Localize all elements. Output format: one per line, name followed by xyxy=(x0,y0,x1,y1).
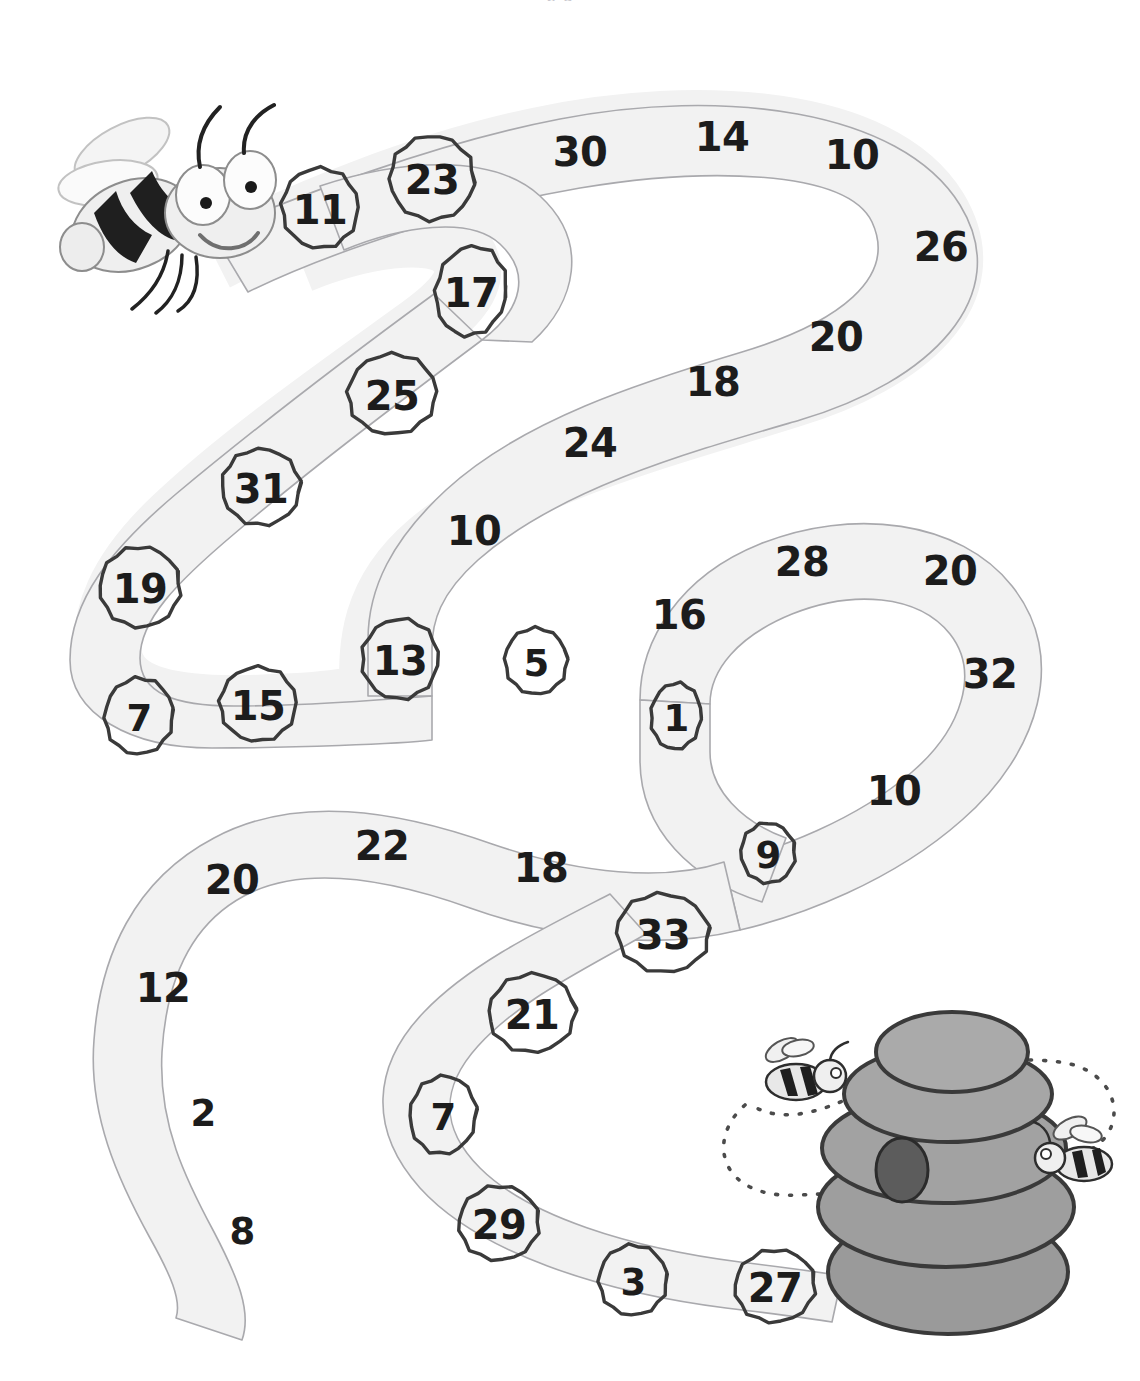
path-number[interactable]: 22 xyxy=(355,826,410,866)
path-number[interactable]: 12 xyxy=(136,968,191,1008)
path-number-circled[interactable]: 3 xyxy=(620,1264,645,1301)
path-number[interactable]: 28 xyxy=(775,542,830,582)
path-number[interactable]: 18 xyxy=(514,848,569,888)
path-number[interactable]: 10 xyxy=(867,771,922,811)
path-number-circled[interactable]: 5 xyxy=(523,645,548,682)
path-number-circled[interactable]: 7 xyxy=(430,1099,455,1136)
path-number-circled[interactable]: 31 xyxy=(234,469,289,509)
path-number[interactable]: 32 xyxy=(963,654,1018,694)
path-number-circled[interactable]: 1 xyxy=(663,700,688,737)
path-number[interactable]: 24 xyxy=(563,423,618,463)
path-number-circled[interactable]: 19 xyxy=(113,569,168,609)
small-bee-left-icon xyxy=(762,1033,848,1100)
path-number-circled[interactable]: 27 xyxy=(748,1268,803,1308)
path-number[interactable]: 10 xyxy=(825,135,880,175)
path-number-circled[interactable]: 21 xyxy=(505,995,560,1035)
path-number-circled[interactable]: 29 xyxy=(472,1205,527,1245)
path-number[interactable]: 20 xyxy=(809,317,864,357)
path-number[interactable]: 14 xyxy=(695,117,750,157)
path-number[interactable]: 10 xyxy=(447,511,502,551)
worksheet-canvas: p g xyxy=(0,0,1140,1381)
path-number-circled[interactable]: 15 xyxy=(231,686,286,726)
path-number[interactable]: 8 xyxy=(229,1213,254,1250)
path-number[interactable]: 30 xyxy=(553,132,608,172)
path-number[interactable]: 16 xyxy=(652,595,707,635)
path-number-circled[interactable]: 9 xyxy=(755,837,780,874)
path-number-circled[interactable]: 23 xyxy=(405,160,460,200)
path-number-circled[interactable]: 33 xyxy=(636,915,691,955)
hive-body xyxy=(818,1012,1074,1334)
path-number-circled[interactable]: 25 xyxy=(365,376,420,416)
path-number-circled[interactable]: 17 xyxy=(444,273,499,313)
path-number[interactable]: 26 xyxy=(914,227,969,267)
path-number-circled[interactable]: 13 xyxy=(373,641,428,681)
path-number-circled[interactable]: 7 xyxy=(126,700,151,737)
path-number[interactable]: 2 xyxy=(190,1095,215,1132)
path-number[interactable]: 18 xyxy=(686,362,741,402)
path-number[interactable]: 20 xyxy=(923,551,978,591)
path-number-circled[interactable]: 11 xyxy=(293,190,348,230)
path-number[interactable]: 20 xyxy=(205,860,260,900)
